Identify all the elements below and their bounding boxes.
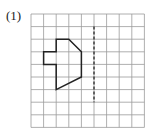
- grid-lines: [31, 14, 144, 127]
- grid-figure: [0, 0, 152, 139]
